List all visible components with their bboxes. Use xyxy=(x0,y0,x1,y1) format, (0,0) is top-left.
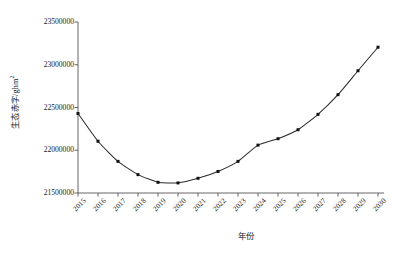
chart-figure: 生态赤字/ghm2 235000002300000022500000220000… xyxy=(0,0,414,255)
x-axis-tick-labels: 2015201620172018201920202021202220232024… xyxy=(0,0,414,255)
x-axis-title: 年份 xyxy=(0,229,414,241)
